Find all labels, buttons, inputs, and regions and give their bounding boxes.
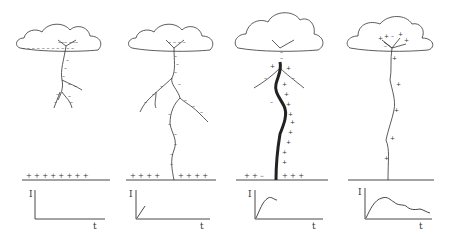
svg-text:–: –: [160, 82, 163, 89]
graph-y-label: I: [248, 189, 252, 199]
svg-text:+: +: [396, 80, 401, 87]
svg-text:–: –: [74, 82, 77, 89]
ground-charges: + + – + + +: [244, 172, 304, 180]
svg-text:+ + + + + + + +: + + + + + + + +: [26, 172, 89, 180]
svg-text:–: –: [62, 72, 65, 79]
svg-text:+: +: [378, 34, 383, 41]
svg-text:+: +: [392, 54, 397, 61]
svg-text:–: –: [170, 150, 173, 157]
panel-return-stroke: –– ++ –– ++– +++ ++++ + + – + + + I t: [224, 0, 336, 241]
graph-y-label: I: [29, 189, 33, 199]
svg-text:+: +: [284, 90, 289, 97]
return-stroke-illustration: –– ++ –– ++– +++ ++++ + + – + + +: [224, 0, 336, 241]
svg-text:–: –: [292, 74, 295, 81]
svg-text:–: –: [170, 160, 173, 167]
graph-y-label: I: [358, 187, 362, 197]
panel-stepped-leader: – – – – – – – – – – – ––– ––– ––– –– –––…: [0, 0, 112, 241]
svg-text:–: –: [68, 80, 71, 87]
current-graph: [255, 190, 323, 219]
svg-text:–: –: [174, 130, 177, 137]
svg-text:+: +: [398, 30, 403, 37]
continuing-current-illustration: ++ –++ – +++ ++: [336, 0, 450, 241]
svg-text:–: –: [178, 80, 181, 87]
svg-text:+: +: [282, 80, 287, 87]
svg-text:+: +: [394, 106, 399, 113]
svg-text:+: +: [390, 134, 395, 141]
current-graph: [365, 188, 432, 219]
svg-text:–: –: [168, 110, 171, 117]
svg-text:–: –: [168, 120, 171, 127]
svg-text:–: –: [56, 90, 59, 97]
svg-text:– – – – – – – – – – –: – – – – – – – – – – –: [22, 44, 74, 51]
svg-text:–: –: [174, 52, 177, 59]
ground-positive-charges: + + + + + + + +: [130, 172, 208, 180]
svg-text:––– –––: ––– –––: [58, 38, 78, 45]
svg-text:–: –: [64, 64, 67, 71]
svg-text:–: –: [174, 140, 177, 147]
svg-text:+: +: [286, 64, 291, 71]
svg-text:+: +: [286, 100, 291, 107]
panel-continuing-current: ++ –++ – +++ ++ I t: [336, 0, 448, 241]
svg-text:+: +: [282, 158, 287, 165]
svg-text:–: –: [174, 68, 177, 75]
svg-text:+: +: [384, 154, 389, 161]
svg-text:+ + –: + + –: [244, 172, 264, 180]
svg-text:–: –: [152, 90, 155, 97]
svg-text:+: +: [290, 118, 295, 125]
svg-text:+ + + +: + + + +: [130, 172, 160, 180]
svg-text:–: –: [70, 98, 73, 105]
svg-text:–: –: [192, 102, 195, 109]
svg-text:–: –: [66, 56, 69, 63]
svg-text:–: –: [270, 98, 273, 105]
stepped-leader-illustration: – – – – – – – – – – – ––– ––– ––– –– –––…: [0, 0, 112, 241]
svg-text:+: +: [270, 62, 275, 69]
svg-text:–: –: [200, 108, 203, 115]
graph-x-label: t: [312, 221, 316, 231]
graph-x-label: t: [93, 221, 97, 231]
svg-text:–: –: [280, 54, 283, 61]
svg-text:+ + + +: + + + +: [178, 172, 208, 180]
graph-y-label: I: [129, 189, 133, 199]
svg-text:+ + +: + + +: [282, 172, 304, 180]
cloud-icon: [235, 13, 323, 52]
negative-charges: – – – – ––– –––– ––– –––– ––: [144, 38, 203, 167]
svg-text:+: +: [404, 36, 409, 43]
svg-text:+: +: [286, 138, 291, 145]
graph-x-label: t: [419, 221, 423, 231]
svg-text:+: +: [288, 128, 293, 135]
graph-x-label: t: [200, 221, 204, 231]
svg-text:+ –: + –: [384, 32, 394, 39]
svg-text:–: –: [184, 96, 187, 103]
leader-approaching-illustration: – – – – ––– –––– ––– –––– –– + + + + + +…: [112, 0, 224, 241]
svg-text:– – – –: – – – –: [168, 38, 186, 45]
svg-text:–: –: [176, 60, 179, 67]
svg-text:–: –: [264, 74, 267, 81]
negative-charges: – – – – – – – – – – – ––– ––– ––– –– –––…: [22, 38, 78, 105]
svg-text:+: +: [282, 148, 287, 155]
ground-positive-charges: + + + + + + + +: [26, 172, 89, 180]
svg-text:–: –: [54, 98, 57, 105]
svg-text:–: –: [384, 42, 387, 49]
current-graph: [35, 190, 105, 219]
panel-leader-approaching: – – – – ––– –––– ––– –––– –– + + + + + +…: [112, 0, 224, 241]
svg-text:–: –: [144, 98, 147, 105]
svg-text:+: +: [288, 110, 293, 117]
current-graph: [136, 190, 210, 219]
